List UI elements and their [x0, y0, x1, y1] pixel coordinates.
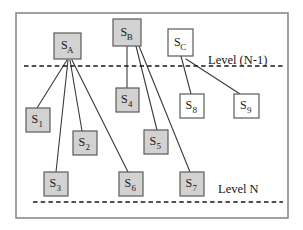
node-s3-base-label: S	[49, 176, 56, 190]
node-s9-subscript-label: 9	[247, 105, 252, 115]
node-s5-subscript-label: 5	[157, 141, 162, 151]
node-s7-base-label: S	[185, 176, 192, 190]
node-s9[interactable]: S9	[234, 94, 259, 118]
node-s6-subscript-label: 6	[132, 183, 137, 193]
node-s2-base-label: S	[78, 135, 85, 149]
node-s4-subscript-label: 4	[128, 99, 133, 109]
node-s8[interactable]: S8	[180, 94, 204, 118]
node-sc-subscript-label: C	[180, 42, 186, 52]
node-sa[interactable]: SA	[54, 33, 81, 59]
node-s9-base-label: S	[240, 98, 247, 112]
node-sb[interactable]: SB	[113, 19, 141, 46]
node-s5[interactable]: S5	[144, 130, 168, 154]
node-s8-subscript-label: 8	[193, 105, 198, 115]
node-s6-base-label: S	[124, 176, 131, 190]
node-s1-subscript-label: 1	[39, 119, 44, 129]
node-s2[interactable]: S2	[73, 131, 97, 155]
node-sa-subscript-label: A	[67, 45, 74, 55]
node-s6[interactable]: S6	[119, 172, 143, 196]
node-sc[interactable]: SC	[168, 29, 193, 56]
node-s2-subscript-label: 2	[86, 142, 91, 152]
node-s3[interactable]: S3	[44, 172, 68, 196]
level-n-1-label: Level (N-1)	[208, 53, 267, 67]
node-s3-subscript-label: 3	[57, 183, 62, 193]
node-s7-subscript-label: 7	[193, 183, 198, 193]
node-s1-base-label: S	[31, 112, 38, 126]
hierarchy-diagram: SASBSCS1S2S3S4S5S6S7S8S9 Level (N-1)Leve…	[0, 0, 303, 230]
node-s4[interactable]: S4	[116, 88, 139, 112]
node-s8-base-label: S	[185, 98, 192, 112]
node-sb-subscript-label: B	[127, 32, 133, 42]
node-s4-base-label: S	[121, 92, 128, 106]
node-s7[interactable]: S7	[180, 172, 204, 196]
level-n-label: Level N	[218, 182, 259, 196]
node-s1[interactable]: S1	[26, 108, 50, 132]
diagram-canvas: SASBSCS1S2S3S4S5S6S7S8S9 Level (N-1)Leve…	[0, 0, 303, 230]
node-s5-base-label: S	[149, 134, 156, 148]
